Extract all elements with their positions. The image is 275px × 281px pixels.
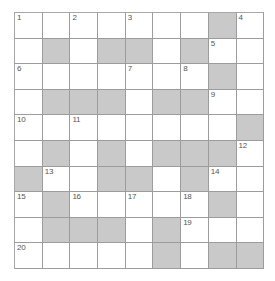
crossword-clue-number: 7 (128, 64, 132, 74)
crossword-cell[interactable] (237, 167, 265, 193)
crossword-clue-number: 20 (17, 243, 26, 253)
crossword-cell[interactable] (15, 39, 43, 65)
crossword-cell[interactable]: 3 (126, 13, 154, 39)
crossword-cell[interactable]: 8 (181, 64, 209, 90)
crossword-cell[interactable] (181, 13, 209, 39)
crossword-cell[interactable] (181, 115, 209, 141)
crossword-cell[interactable] (126, 90, 154, 116)
crossword-cell[interactable]: 2 (70, 13, 98, 39)
crossword-cell[interactable] (237, 39, 265, 65)
crossword-cell[interactable]: 15 (15, 192, 43, 218)
crossword-cell[interactable] (237, 218, 265, 244)
crossword-clue-number: 14 (211, 167, 220, 177)
crossword-clue-number: 13 (45, 167, 54, 177)
crossword-cell[interactable]: 14 (209, 167, 237, 193)
crossword-cell[interactable] (70, 39, 98, 65)
crossword-cell[interactable]: 17 (126, 192, 154, 218)
crossword-cell-blocked (237, 243, 265, 269)
crossword-cell-blocked (209, 243, 237, 269)
crossword-cell-blocked (126, 167, 154, 193)
crossword-cell-blocked (43, 192, 71, 218)
crossword-cell[interactable]: 1 (15, 13, 43, 39)
crossword-cell-blocked (153, 218, 181, 244)
crossword-clue-number: 17 (128, 192, 137, 202)
crossword-cell-blocked (43, 90, 71, 116)
crossword-cell[interactable] (15, 218, 43, 244)
crossword-cell[interactable]: 9 (209, 90, 237, 116)
crossword-clue-number: 11 (72, 115, 80, 125)
crossword-cell[interactable]: 16 (70, 192, 98, 218)
crossword-cell[interactable] (153, 39, 181, 65)
crossword-cell[interactable]: 6 (15, 64, 43, 90)
crossword-cell[interactable] (153, 115, 181, 141)
crossword-cell-blocked (153, 141, 181, 167)
crossword-cell[interactable] (98, 13, 126, 39)
crossword-cell[interactable] (153, 64, 181, 90)
crossword-cell[interactable] (126, 218, 154, 244)
crossword-cell[interactable]: 18 (181, 192, 209, 218)
crossword-cell[interactable] (70, 167, 98, 193)
crossword-cell-blocked (126, 39, 154, 65)
crossword-cell[interactable] (98, 243, 126, 269)
crossword-grid[interactable]: 1234567891011121314151617181920 (14, 12, 264, 269)
crossword-cell[interactable] (15, 90, 43, 116)
crossword-cell[interactable]: 4 (237, 13, 265, 39)
crossword-cell[interactable] (153, 13, 181, 39)
crossword-cell[interactable]: 11 (70, 115, 98, 141)
crossword-clue-number: 12 (239, 141, 248, 151)
crossword-cell[interactable] (237, 90, 265, 116)
crossword-cell-blocked (209, 192, 237, 218)
crossword-cell[interactable]: 10 (15, 115, 43, 141)
crossword-cell[interactable]: 5 (209, 39, 237, 65)
crossword-cell[interactable] (70, 141, 98, 167)
crossword-cell[interactable] (126, 141, 154, 167)
crossword-cell[interactable]: 20 (15, 243, 43, 269)
crossword-clue-number: 15 (17, 192, 26, 202)
crossword-cell[interactable] (43, 243, 71, 269)
crossword-cell[interactable] (153, 167, 181, 193)
crossword-cell[interactable] (98, 115, 126, 141)
crossword-cell[interactable]: 19 (181, 218, 209, 244)
crossword-cell-blocked (70, 218, 98, 244)
crossword-cell-blocked (98, 141, 126, 167)
crossword-cell[interactable] (70, 64, 98, 90)
crossword-cell[interactable] (126, 243, 154, 269)
crossword-cell[interactable] (181, 243, 209, 269)
crossword-cell-blocked (98, 90, 126, 116)
crossword-cell[interactable] (126, 115, 154, 141)
crossword-clue-number: 18 (183, 192, 192, 202)
crossword-cell[interactable] (153, 192, 181, 218)
crossword-clue-number: 2 (72, 13, 76, 23)
crossword-cell[interactable] (43, 64, 71, 90)
crossword-cell-blocked (181, 39, 209, 65)
crossword-clue-number: 16 (72, 192, 81, 202)
crossword-clue-number: 3 (128, 13, 132, 23)
crossword-cell[interactable]: 7 (126, 64, 154, 90)
crossword-cell[interactable]: 13 (43, 167, 71, 193)
crossword-cell-blocked (209, 13, 237, 39)
crossword-cell-blocked (43, 141, 71, 167)
crossword-cell-blocked (181, 90, 209, 116)
crossword-cell-blocked (209, 141, 237, 167)
crossword-clue-number: 5 (211, 39, 215, 49)
crossword-cell[interactable] (209, 115, 237, 141)
crossword-cell[interactable]: 12 (237, 141, 265, 167)
crossword-cell[interactable] (15, 141, 43, 167)
crossword-cell[interactable] (43, 13, 71, 39)
crossword-cell[interactable] (43, 115, 71, 141)
crossword-cell[interactable] (70, 243, 98, 269)
crossword-clue-number: 6 (17, 64, 21, 74)
crossword-cell-blocked (237, 115, 265, 141)
crossword-clue-number: 4 (239, 13, 243, 23)
crossword-clue-number: 10 (17, 115, 26, 125)
crossword-cell-blocked (153, 243, 181, 269)
crossword-cell[interactable] (237, 64, 265, 90)
crossword-cell-blocked (153, 90, 181, 116)
crossword-cell[interactable] (237, 192, 265, 218)
crossword-clue-number: 19 (183, 218, 192, 228)
crossword-cell-blocked (15, 167, 43, 193)
crossword-cell-blocked (181, 167, 209, 193)
crossword-cell[interactable] (209, 218, 237, 244)
crossword-cell[interactable] (98, 192, 126, 218)
crossword-cell[interactable] (98, 64, 126, 90)
